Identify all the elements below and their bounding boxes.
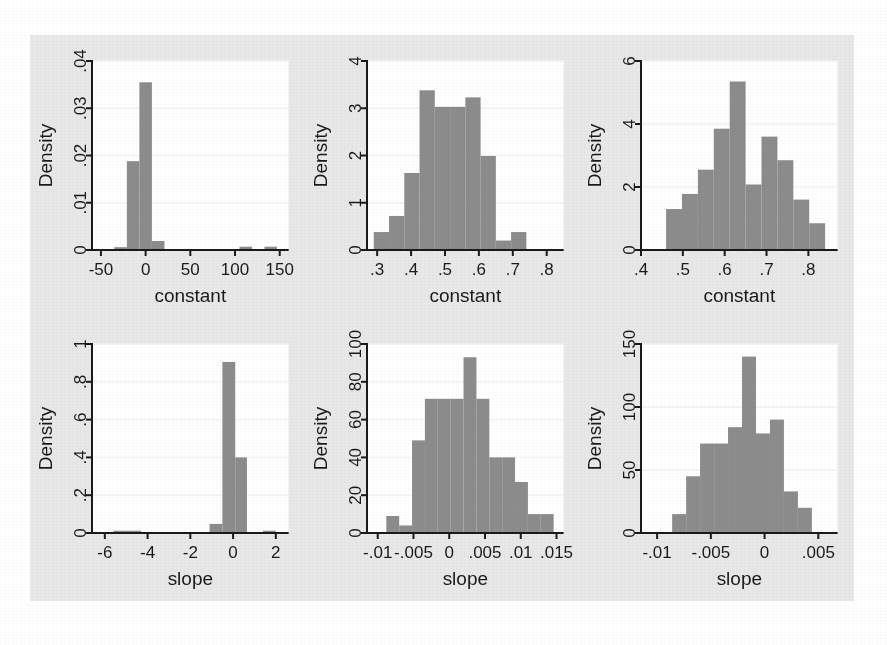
y-axis-tick-label: 3	[346, 104, 365, 113]
y-axis-tick-label: 80	[346, 372, 365, 391]
y-axis-title: Density	[35, 123, 56, 187]
histogram-svg: 020406080100-.01-.0050.005.01.015slopeDe…	[305, 318, 580, 601]
x-axis-tick-label: .01	[509, 543, 533, 562]
y-axis-tick-label: .8	[71, 375, 90, 389]
y-axis-tick-label: .02	[71, 144, 90, 168]
histogram-bar	[762, 137, 778, 250]
histogram-bar	[666, 209, 682, 250]
histogram-panel-6-slope: 050100150-.01-.0050.005slopeDensity	[579, 318, 854, 601]
y-axis-tick-label: 40	[346, 448, 365, 467]
histogram-panel-2-constant: 01234.3.4.5.6.7.8constantDensity	[305, 35, 580, 318]
x-axis-tick-label: .7	[760, 260, 774, 279]
x-axis-tick-label: -.005	[692, 543, 731, 562]
histogram-bar	[152, 241, 165, 250]
histogram-bar	[714, 444, 728, 533]
x-axis-tick-label: .6	[471, 260, 485, 279]
histogram-bar	[686, 476, 700, 533]
x-axis-title: constant	[154, 285, 226, 306]
y-axis-tick-label: 0	[346, 245, 365, 254]
x-axis-tick-label: 50	[181, 260, 200, 279]
y-axis-tick-label: 100	[346, 330, 365, 358]
histogram-bar	[528, 514, 541, 533]
histogram-bar	[698, 170, 714, 250]
histogram-bar	[728, 427, 742, 533]
y-axis-tick-label: 0	[621, 245, 640, 254]
x-axis-tick-label: -2	[183, 543, 198, 562]
y-axis-tick-label: 100	[621, 393, 640, 421]
histogram-bar	[222, 362, 235, 533]
histogram-bar	[419, 90, 434, 250]
histogram-bar	[511, 232, 526, 250]
histogram-bar	[373, 232, 388, 250]
x-axis-tick-label: -50	[89, 260, 114, 279]
histogram-bar	[714, 129, 730, 250]
histogram-bar	[235, 457, 247, 533]
x-axis-tick-label: 2	[271, 543, 280, 562]
x-axis-title: constant	[429, 285, 501, 306]
histogram-bar	[540, 514, 553, 533]
x-axis-tick-label: .4	[634, 260, 648, 279]
y-axis-title: Density	[585, 123, 606, 187]
histogram-svg: 050100150-.01-.0050.005slopeDensity	[579, 318, 854, 601]
histogram-bar	[700, 444, 714, 533]
histogram-bar	[389, 216, 404, 250]
histogram-bar	[386, 516, 399, 533]
y-axis-tick-label: 0	[71, 528, 90, 537]
x-axis-tick-label: .5	[438, 260, 452, 279]
y-axis-title: Density	[585, 406, 606, 470]
histogram-bar	[437, 399, 450, 533]
histogram-bar	[495, 241, 510, 250]
histogram-bar	[450, 107, 465, 250]
x-axis-tick-label: .8	[539, 260, 553, 279]
y-axis-tick-label: 2	[346, 151, 365, 160]
histogram-svg: 0.2.4.6.81-6-4-202slopeDensity	[30, 318, 305, 601]
histogram-bar	[778, 160, 794, 250]
histogram-bar	[682, 194, 698, 250]
histogram-svg: 01234.3.4.5.6.7.8constantDensity	[305, 35, 580, 318]
histogram-bar	[798, 508, 812, 533]
x-axis-tick-label: 0	[228, 543, 237, 562]
y-axis-tick-label: 2	[621, 182, 640, 191]
figure-panel-grid: 0.01.02.03.04-50050100150constantDensity…	[30, 35, 854, 601]
histogram-bar	[404, 173, 419, 250]
histogram-bar	[502, 457, 515, 533]
x-axis-tick-label: .005	[802, 543, 835, 562]
y-axis-tick-label: .6	[71, 413, 90, 427]
y-axis-title: Density	[35, 406, 56, 470]
y-axis-tick-label: 6	[621, 56, 640, 65]
histogram-bar	[784, 491, 798, 533]
x-axis-title: slope	[442, 568, 487, 589]
x-axis-tick-label: 100	[221, 260, 249, 279]
x-axis-tick-label: .6	[718, 260, 732, 279]
y-axis-tick-label: 4	[346, 56, 365, 65]
histogram-bar	[425, 399, 438, 533]
x-axis-tick-label: .005	[468, 543, 501, 562]
x-axis-tick-label: .015	[540, 543, 573, 562]
y-axis-tick-label: 150	[621, 330, 640, 358]
histogram-bar	[463, 357, 476, 533]
x-axis-tick-label: -6	[97, 543, 112, 562]
histogram-bar	[412, 440, 425, 533]
histogram-panel-1-constant: 0.01.02.03.04-50050100150constantDensity	[30, 35, 305, 318]
histogram-bar	[770, 420, 784, 533]
histogram-bar	[210, 524, 223, 533]
y-axis-tick-label: 4	[621, 119, 640, 128]
histogram-bar	[742, 357, 756, 533]
y-axis-tick-label: 50	[621, 461, 640, 480]
histogram-bar	[450, 399, 463, 533]
y-axis-tick-label: .04	[71, 49, 90, 73]
x-axis-tick-label: -.01	[643, 543, 672, 562]
y-axis-tick-label: 0	[621, 528, 640, 537]
x-axis-title: constant	[704, 285, 776, 306]
histogram-bar	[139, 82, 152, 250]
histogram-bar	[746, 184, 762, 250]
x-axis-title: slope	[168, 568, 213, 589]
y-axis-tick-label: 20	[346, 486, 365, 505]
histogram-bar	[127, 161, 140, 250]
y-axis-tick-label: 1	[346, 198, 365, 207]
histogram-panel-4-slope: 0.2.4.6.81-6-4-202slopeDensity	[30, 318, 305, 601]
histogram-bar	[399, 525, 412, 533]
y-axis-tick-label: 60	[346, 410, 365, 429]
histogram-panel-3-constant: 0246.4.5.6.7.8constantDensity	[579, 35, 854, 318]
x-axis-title: slope	[717, 568, 762, 589]
